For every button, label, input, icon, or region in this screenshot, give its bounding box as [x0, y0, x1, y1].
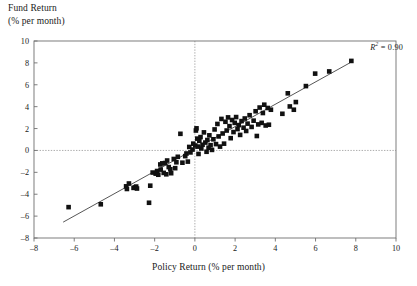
data-point [288, 104, 293, 109]
data-point [202, 130, 207, 135]
data-point [231, 130, 236, 135]
y-tick-label: 2 [25, 125, 29, 134]
data-point [194, 126, 199, 131]
data-point [259, 121, 264, 126]
x-tick-label: 6 [314, 244, 318, 253]
data-point [169, 171, 174, 176]
data-point [190, 147, 195, 152]
x-tick-label: –6 [69, 244, 78, 253]
data-point [165, 158, 170, 163]
y-tick-label: 8 [25, 59, 29, 68]
data-point [226, 115, 231, 120]
x-tick-label: –2 [150, 244, 159, 253]
data-point [211, 137, 216, 142]
data-point [198, 135, 203, 140]
data-point [257, 105, 262, 110]
data-point [269, 107, 274, 112]
r-squared-annotation: R2 = 0.90 [370, 41, 403, 52]
data-point [261, 111, 266, 116]
data-point [210, 148, 215, 153]
y-tick-label: 10 [21, 37, 29, 46]
data-point [228, 136, 233, 141]
data-point [255, 134, 260, 139]
y-tick-label: –2 [20, 168, 29, 177]
y-tick-label: 6 [25, 81, 29, 90]
data-point [224, 128, 229, 133]
data-point [286, 91, 291, 96]
data-point [175, 154, 180, 159]
data-point [178, 132, 183, 137]
data-point [349, 59, 354, 64]
data-point [238, 133, 243, 138]
x-tick-label: 4 [273, 244, 277, 253]
data-point [196, 152, 201, 157]
data-point [174, 160, 179, 165]
data-point [66, 205, 71, 210]
data-point [208, 143, 213, 148]
data-point [156, 172, 161, 177]
data-point [236, 123, 241, 128]
data-point [127, 181, 132, 186]
data-point [251, 118, 256, 123]
data-points [66, 59, 353, 210]
data-point [304, 84, 309, 89]
data-point [219, 117, 224, 122]
data-point [164, 172, 169, 177]
data-point [294, 100, 299, 105]
data-point [125, 187, 130, 192]
data-point [147, 200, 152, 205]
data-point [234, 115, 239, 120]
data-point [220, 131, 225, 136]
x-tick-label: 0 [193, 244, 197, 253]
data-point [249, 125, 254, 130]
y-tick-label: –6 [20, 212, 29, 221]
scatter-plot: –8–6–4–20246810–8–6–4–20246810 [0, 0, 417, 286]
data-point [135, 186, 140, 191]
x-tick-label: 8 [354, 244, 358, 253]
r-squared-value: = 0.90 [379, 43, 403, 52]
data-point [204, 149, 209, 154]
y-tick-label: 4 [25, 103, 29, 112]
x-axis-label: Policy Return (% per month) [0, 262, 417, 272]
data-point [222, 141, 227, 146]
data-point [205, 138, 210, 143]
x-tick-label: –4 [109, 244, 118, 253]
y-tick-label: 0 [25, 146, 29, 155]
data-point [327, 69, 332, 74]
data-point [173, 166, 178, 171]
data-point [292, 107, 297, 112]
data-point [235, 127, 240, 132]
data-point [214, 142, 219, 147]
data-point [242, 116, 247, 121]
x-tick-label: 10 [392, 244, 400, 253]
data-point [244, 129, 249, 134]
data-point [168, 167, 173, 172]
x-tick-label: 2 [233, 244, 237, 253]
data-point [207, 133, 212, 138]
data-point [148, 183, 153, 188]
data-point [223, 119, 228, 124]
figure-container: Fund Return (% per month) –8–6–4–2024681… [0, 0, 417, 286]
data-point [218, 144, 223, 149]
data-point [313, 71, 318, 76]
data-point [212, 127, 217, 132]
data-point [253, 109, 258, 114]
data-point [186, 159, 191, 164]
data-point [216, 134, 221, 139]
x-tick-label: –8 [29, 244, 38, 253]
data-point [98, 202, 103, 207]
data-point [247, 113, 252, 118]
data-point [267, 122, 272, 127]
data-point [227, 124, 232, 129]
data-point [280, 111, 285, 116]
data-point [215, 122, 220, 127]
y-tick-label: –8 [20, 234, 29, 243]
data-point [232, 121, 237, 126]
data-point [180, 160, 185, 165]
data-point [184, 151, 189, 156]
data-point [245, 121, 250, 126]
y-tick-label: –4 [20, 190, 29, 199]
